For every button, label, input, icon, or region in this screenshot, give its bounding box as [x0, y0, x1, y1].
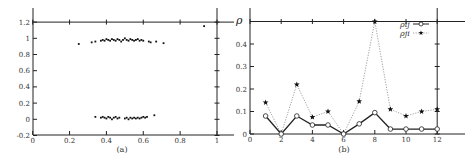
scatter-point [102, 39, 104, 41]
panel-a-points [78, 25, 205, 120]
panel-a-x-tick-label: 0.8 [175, 137, 186, 145]
scatter-point [128, 40, 130, 42]
scatter-point [150, 41, 152, 43]
panel-a-x-tick-label: 1 [215, 137, 219, 145]
scatter-point [148, 41, 150, 43]
marker-rho-ji [325, 109, 331, 114]
scatter-point [109, 117, 111, 119]
scatter-point [139, 118, 141, 120]
scatter-point [142, 116, 144, 118]
panel-a-x-tick-label: 0 [30, 137, 34, 145]
panel-a-y-tick-label: -0.2 [17, 132, 31, 140]
marker-rho-ji [294, 82, 300, 87]
panel-b-x-tick-label: 10 [402, 136, 411, 144]
panel-a-x-tick-label: 0.2 [64, 137, 75, 145]
marker-rho-ij [404, 127, 409, 132]
scatter-point [113, 39, 115, 41]
scatter-point [135, 118, 137, 120]
figure: -0.200.20.40.60.811.200.20.40.60.81 (a) … [0, 0, 469, 159]
marker-rho-ij [341, 132, 346, 137]
scatter-point [141, 117, 143, 119]
scatter-point [91, 41, 93, 43]
legend-marks [413, 22, 429, 35]
scatter-point [131, 39, 133, 41]
scatter-point [94, 116, 96, 118]
marker-rho-ji [263, 100, 269, 105]
scatter-point [146, 116, 148, 118]
panel-b-lines [266, 22, 438, 135]
panel-b-axes [250, 8, 465, 134]
scatter-point [163, 42, 165, 44]
scatter-point [133, 117, 135, 119]
scatter-point [102, 116, 104, 118]
marker-rho-ij [310, 123, 315, 128]
scatter-point [107, 39, 109, 41]
panel-a-ticks: -0.200.20.40.60.811.200.20.40.60.81 [17, 19, 220, 145]
legend-marker-rho-ij [419, 22, 423, 26]
scatter-point [128, 118, 130, 120]
scatter-point [118, 117, 120, 119]
scatter-point [129, 117, 131, 119]
marker-rho-ij [419, 127, 424, 132]
legend-label-rho-ij: ρij [399, 20, 410, 29]
scatter-point [94, 41, 96, 43]
marker-rho-ij [435, 127, 440, 132]
scatter-point [100, 40, 102, 42]
scatter-point [107, 116, 109, 118]
marker-rho-ij [388, 127, 393, 132]
marker-rho-ij [357, 122, 362, 127]
scatter-point [104, 117, 106, 119]
panel-b-y-tick-label: 0.3 [236, 63, 247, 71]
scatter-point [115, 40, 117, 42]
scatter-point [131, 118, 133, 120]
marker-rho-ji [419, 109, 425, 114]
panel-b-x-tick-label: 2 [279, 136, 283, 144]
scatter-point [137, 117, 139, 119]
panel-b-x-tick-label: 0 [248, 136, 252, 144]
scatter-point [137, 38, 139, 40]
panel-b-line: 00.10.20.30.4024681012 ρ ρij ρji (b) [235, 8, 465, 154]
panel-b-y-tick-label: 0.1 [236, 108, 247, 116]
panel-b-x-tick-label: 4 [310, 136, 315, 144]
scatter-point [100, 117, 102, 119]
scatter-point [106, 38, 108, 40]
scatter-point [117, 38, 119, 40]
scatter-point [129, 38, 131, 40]
marker-rho-ji [403, 113, 409, 118]
scatter-point [106, 118, 108, 120]
panel-a-x-tick-label: 0.6 [138, 137, 150, 145]
panel-a-y-tick-label: 1.2 [19, 19, 30, 27]
marker-rho-ij [295, 114, 300, 119]
scatter-point [141, 39, 143, 41]
panel-a-y-tick-label: 0.8 [19, 51, 30, 59]
marker-rho-ij [326, 123, 331, 128]
panel-b-y-tick-label: 0.4 [236, 41, 248, 49]
legend-marker-rho-ji [419, 30, 424, 35]
scatter-point [113, 117, 115, 119]
scatter-point [111, 38, 113, 40]
panel-b-ticks: 00.10.20.30.4024681012 [236, 19, 442, 144]
panel-a-y-tick-label: 0 [26, 116, 30, 124]
marker-rho-ij [373, 110, 378, 115]
legend: ρij ρji [399, 20, 429, 38]
marker-rho-ij [279, 132, 284, 137]
marker-rho-ij [263, 114, 268, 119]
scatter-point [111, 118, 113, 120]
scatter-point [126, 39, 128, 41]
panel-a-caption: (a) [116, 145, 127, 154]
panel-b-markers [263, 19, 440, 137]
scatter-point [104, 40, 106, 42]
scatter-point [155, 41, 157, 43]
scatter-point [144, 117, 146, 119]
panel-a-y-tick-label: 1 [26, 35, 30, 43]
panel-a-y-tick-label: 0.4 [19, 83, 31, 91]
scatter-point [142, 40, 144, 42]
scatter-point [126, 117, 128, 119]
panel-b-y-tick-label: 0 [243, 131, 247, 139]
scatter-point [153, 114, 155, 116]
series-line-rho-ji [266, 22, 438, 135]
scatter-point [203, 25, 205, 27]
marker-rho-ji [356, 98, 362, 103]
panel-b-caption: (b) [338, 145, 349, 154]
panel-a-x-tick-label: 0.4 [101, 137, 113, 145]
